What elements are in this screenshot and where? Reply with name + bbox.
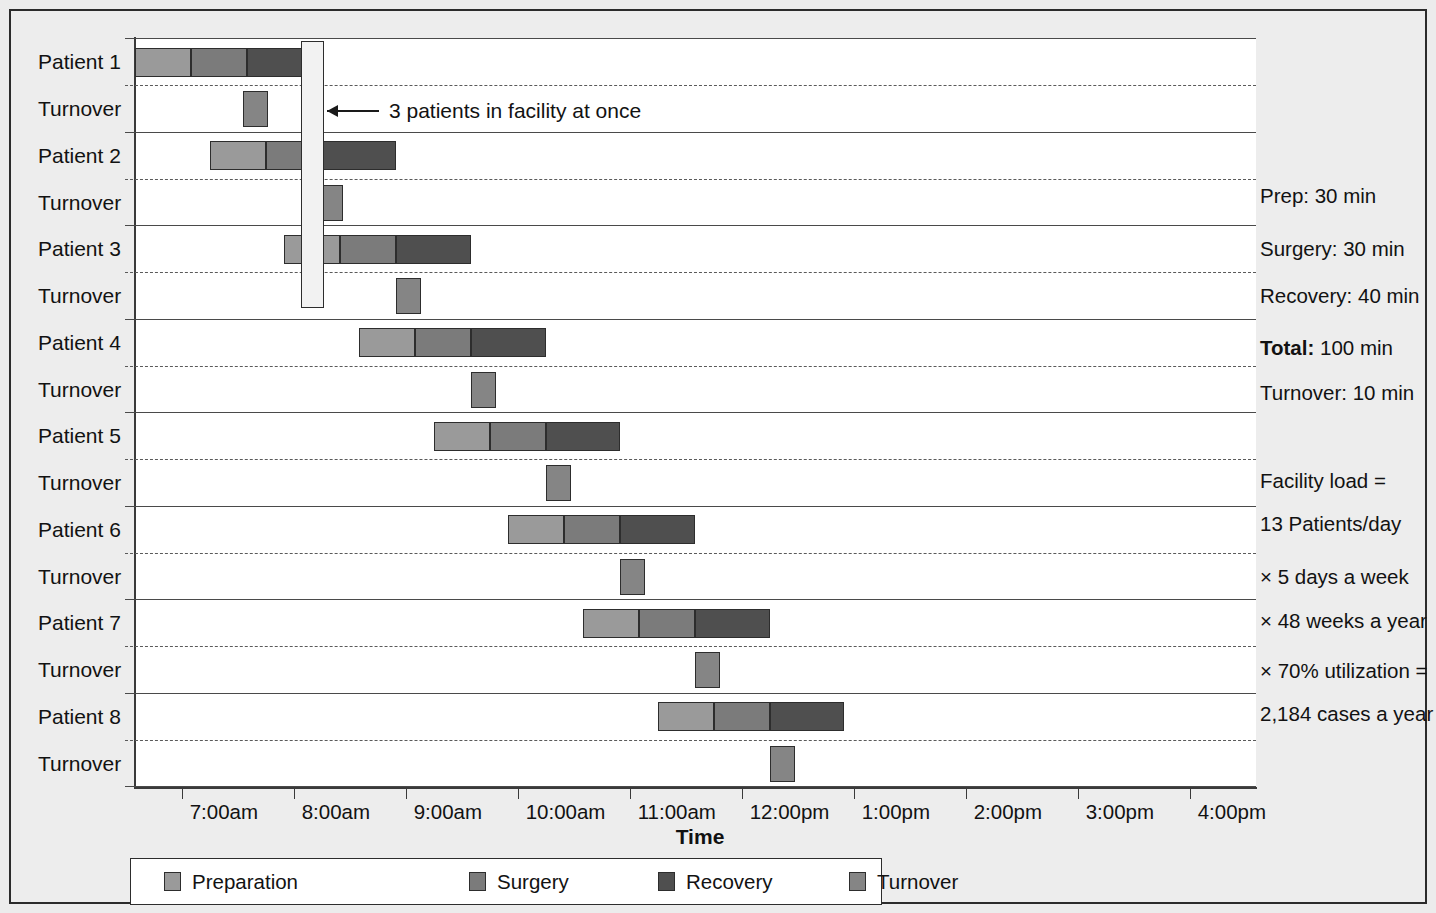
side-panel-line-10: 2,184 cases a year (1260, 702, 1433, 726)
legend-item-turnover[interactable]: Turnover (849, 870, 958, 894)
row-label-patient-8-14: Patient 8 (38, 705, 121, 729)
bar-segment-surgery-patient-1 (191, 48, 247, 77)
bar-segment-preparation-patient-1 (135, 48, 191, 77)
annotation-arrowhead-icon (327, 105, 338, 117)
side-panel-line-3: Total: 100 min (1260, 336, 1393, 360)
legend: PreparationSurgeryRecoveryTurnover (130, 858, 882, 905)
side-panel-bold-prefix: Total: (1260, 336, 1314, 359)
side-panel-line-6: 13 Patients/day (1260, 512, 1401, 536)
side-panel-line-7: × 5 days a week (1260, 565, 1409, 589)
row-separator-dashed (125, 646, 1256, 647)
bar-segment-recovery-patient-8 (770, 702, 845, 731)
row-separator-solid (125, 319, 1256, 320)
side-panel-line-5: Facility load = (1260, 469, 1386, 493)
bar-segment-surgery-patient-3 (340, 235, 396, 264)
x-tick-label-7:00am: 7:00am (190, 800, 258, 824)
annotation-arrow-icon (327, 110, 379, 112)
row-label-patient-7-12: Patient 7 (38, 611, 121, 635)
bar-segment-recovery-patient-5 (546, 422, 621, 451)
x-tick-1:00pm (854, 788, 855, 799)
bar-segment-recovery-patient-7 (695, 609, 770, 638)
row-label-patient-4-6: Patient 4 (38, 331, 121, 355)
legend-swatch-surgery (469, 872, 486, 891)
x-tick-label-11:00am: 11:00am (638, 800, 716, 824)
row-label-turnover-1: Turnover (38, 97, 121, 121)
legend-label-surgery: Surgery (497, 870, 569, 894)
bar-turnover-patient-8 (770, 746, 795, 782)
x-tick-label-10:00am: 10:00am (526, 800, 606, 824)
gantt-chart-figure: Patient 1TurnoverPatient 2TurnoverPatien… (0, 0, 1436, 913)
legend-swatch-preparation (164, 872, 181, 891)
bar-turnover-patient-5 (546, 465, 571, 501)
row-separator-solid (125, 132, 1256, 133)
row-label-turnover-9: Turnover (38, 471, 121, 495)
row-label-patient-5-8: Patient 5 (38, 424, 121, 448)
row-label-patient-3-4: Patient 3 (38, 237, 121, 261)
row-label-turnover-15: Turnover (38, 752, 121, 776)
bar-turnover-patient-6 (620, 559, 645, 595)
x-tick-label-1:00pm: 1:00pm (862, 800, 930, 824)
row-separator-dashed (125, 553, 1256, 554)
bar-turnover-patient-7 (695, 652, 720, 688)
bar-segment-preparation-patient-5 (434, 422, 490, 451)
bar-segment-recovery-patient-6 (620, 515, 695, 544)
legend-swatch-turnover (849, 872, 866, 891)
row-separator-solid (125, 693, 1256, 694)
bar-segment-preparation-patient-2 (210, 141, 266, 170)
row-separator-dashed (125, 179, 1256, 180)
x-axis-line (134, 787, 1257, 789)
legend-label-preparation: Preparation (192, 870, 298, 894)
concurrency-highlight-band (301, 41, 324, 308)
x-tick-label-9:00am: 9:00am (414, 800, 482, 824)
x-axis-title: Time (11, 825, 1389, 849)
legend-item-preparation[interactable]: Preparation (164, 870, 298, 894)
side-panel-line-4: Turnover: 10 min (1260, 381, 1414, 405)
row-label-turnover-11: Turnover (38, 565, 121, 589)
x-tick-label-8:00am: 8:00am (302, 800, 370, 824)
x-tick-8:00am (294, 788, 295, 799)
side-panel-line-1: Surgery: 30 min (1260, 237, 1405, 261)
bar-turnover-patient-4 (471, 372, 496, 408)
row-label-turnover-13: Turnover (38, 658, 121, 682)
x-tick-label-4:00pm: 4:00pm (1198, 800, 1266, 824)
bar-segment-surgery-patient-6 (564, 515, 620, 544)
legend-item-recovery[interactable]: Recovery (658, 870, 773, 894)
bar-segment-surgery-patient-7 (639, 609, 695, 638)
side-panel-line-0: Prep: 30 min (1260, 184, 1376, 208)
bar-segment-recovery-patient-2 (322, 141, 397, 170)
bar-turnover-patient-1 (243, 91, 268, 127)
legend-item-surgery[interactable]: Surgery (469, 870, 569, 894)
bar-segment-preparation-patient-8 (658, 702, 714, 731)
row-separator-dashed (125, 366, 1256, 367)
side-panel-line-9: × 70% utilization = (1260, 659, 1428, 683)
x-tick-2:00pm (966, 788, 967, 799)
row-separator-solid (125, 225, 1256, 226)
legend-label-recovery: Recovery (686, 870, 773, 894)
row-label-patient-1-0: Patient 1 (38, 50, 121, 74)
x-tick-12:00pm (742, 788, 743, 799)
row-label-patient-2-2: Patient 2 (38, 144, 121, 168)
row-label-turnover-7: Turnover (38, 378, 121, 402)
bar-segment-preparation-patient-6 (508, 515, 564, 544)
x-tick-label-12:00pm: 12:00pm (750, 800, 830, 824)
bar-segment-preparation-patient-4 (359, 328, 415, 357)
x-tick-9:00am (406, 788, 407, 799)
row-separator-solid (125, 38, 1256, 39)
x-tick-11:00am (630, 788, 631, 799)
row-label-patient-6-10: Patient 6 (38, 518, 121, 542)
bar-segment-recovery-patient-3 (396, 235, 471, 264)
bar-segment-recovery-patient-4 (471, 328, 546, 357)
bar-segment-surgery-patient-8 (714, 702, 770, 731)
bar-segment-surgery-patient-5 (490, 422, 546, 451)
figure-frame: Patient 1TurnoverPatient 2TurnoverPatien… (9, 9, 1427, 904)
side-panel: Prep: 30 minSurgery: 30 minRecovery: 40 … (1260, 39, 1425, 787)
row-separator-solid (125, 506, 1256, 507)
row-separator-dashed (125, 459, 1256, 460)
legend-label-turnover: Turnover (877, 870, 958, 894)
bar-segment-surgery-patient-4 (415, 328, 471, 357)
x-tick-10:00am (518, 788, 519, 799)
bar-segment-preparation-patient-7 (583, 609, 639, 638)
row-separator-dashed (125, 272, 1256, 273)
legend-swatch-recovery (658, 872, 675, 891)
x-tick-label-3:00pm: 3:00pm (1086, 800, 1154, 824)
